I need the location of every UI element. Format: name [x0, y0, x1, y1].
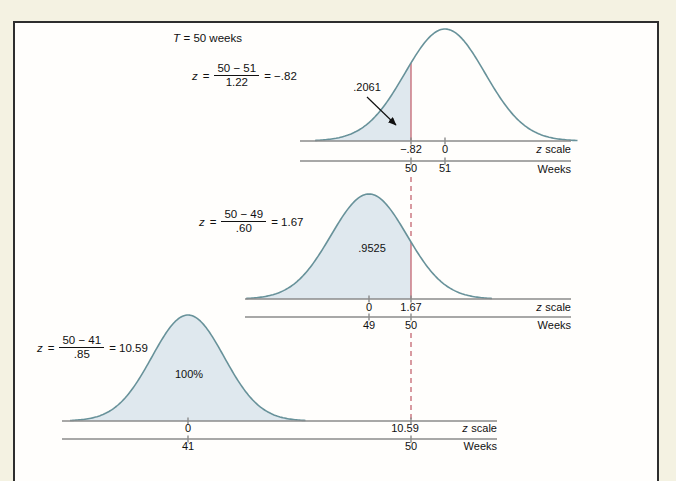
fraction-denominator: 1.22: [223, 76, 251, 89]
fraction: 50 − 51 1.22: [214, 62, 259, 89]
fraction-denominator: .85: [71, 348, 93, 361]
formula-eq: =: [210, 216, 217, 228]
dist2-z-tick-1: 0: [366, 302, 372, 313]
dist3-week-tick-2: 50: [405, 441, 417, 452]
dist1-shaded-area: [315, 63, 411, 141]
dist3-z-tick-2: 10.59: [391, 423, 419, 434]
zscale-label-var: z: [536, 143, 542, 155]
zscale-label-var: z: [536, 301, 542, 313]
header-var: T: [173, 32, 180, 44]
dist2-weeks-label: Weeks: [538, 320, 571, 331]
header-rest: = 50 weeks: [183, 32, 242, 44]
dist1-area-label: .2061: [353, 82, 381, 93]
dist2-zscale-label: zscale: [536, 302, 571, 313]
dist2-formula: z = 50 − 49 .60 = 1.67: [199, 208, 303, 235]
fraction: 50 − 41 .85: [59, 334, 104, 361]
formula-var: z: [192, 70, 198, 82]
dist1-zscale-label: zscale: [536, 144, 571, 155]
dist2-week-tick-2: 50: [405, 320, 417, 331]
dist1-weeks-label: Weeks: [538, 164, 571, 175]
fraction-numerator: 50 − 51: [214, 62, 259, 76]
zscale-label-word: scale: [471, 422, 497, 434]
figure-canvas: [0, 0, 676, 481]
dist3-z-tick-1: 0: [185, 423, 191, 434]
dist2-week-tick-1: 49: [363, 320, 375, 331]
zscale-label-var: z: [462, 422, 468, 434]
dist3-week-tick-1: 41: [182, 441, 194, 452]
dist1-week-tick-2: 51: [439, 163, 451, 174]
dist3-weeks-label: Weeks: [464, 441, 497, 452]
zscale-label-word: scale: [545, 301, 571, 313]
figure-header: T= 50 weeks: [173, 32, 242, 44]
dist3-formula: z = 50 − 41 .85 = 10.59: [37, 334, 148, 361]
dist2-z-tick-2: 1.67: [400, 302, 421, 313]
fraction-denominator: .60: [233, 222, 255, 235]
dist1-z-tick-2: 0: [442, 144, 448, 155]
formula-result: = 1.67: [271, 216, 303, 228]
formula-result: = −.82: [264, 70, 297, 82]
page-background: T= 50 weeks z = 50 − 51 1.22 = −.82 z = …: [0, 0, 676, 481]
formula-result: = 10.59: [109, 342, 148, 354]
dist1-formula: z = 50 − 51 1.22 = −.82: [192, 62, 297, 89]
zscale-label-word: scale: [545, 143, 571, 155]
dist3-area-label: 100%: [175, 369, 203, 380]
formula-eq: =: [48, 342, 55, 354]
dist2-area-label: .9525: [358, 243, 386, 254]
formula-var: z: [199, 216, 205, 228]
fraction: 50 − 49 .60: [221, 208, 266, 235]
formula-var: z: [37, 342, 43, 354]
formula-eq: =: [203, 70, 210, 82]
dist1-week-tick-1: 50: [405, 163, 417, 174]
fraction-numerator: 50 − 41: [59, 334, 104, 348]
fraction-numerator: 50 − 49: [221, 208, 266, 222]
dist1-z-tick-1: −.82: [400, 144, 422, 155]
dist3-zscale-label: zscale: [462, 423, 497, 434]
